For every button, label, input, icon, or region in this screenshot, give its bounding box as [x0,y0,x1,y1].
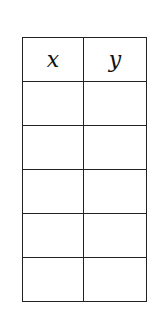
header-y: y [84,38,147,82]
cell-y[interactable] [84,82,147,126]
table-row [23,258,147,302]
xy-value-table: x y [22,37,147,302]
table-row [23,170,147,214]
cell-x[interactable] [23,170,84,214]
header-x: x [23,38,84,82]
cell-x[interactable] [23,258,84,302]
cell-y[interactable] [84,170,147,214]
table-row [23,214,147,258]
cell-y[interactable] [84,126,147,170]
cell-x[interactable] [23,126,84,170]
table-row [23,82,147,126]
header-row: x y [23,38,147,82]
table-row [23,126,147,170]
cell-y[interactable] [84,258,147,302]
cell-y[interactable] [84,214,147,258]
cell-x[interactable] [23,82,84,126]
cell-x[interactable] [23,214,84,258]
